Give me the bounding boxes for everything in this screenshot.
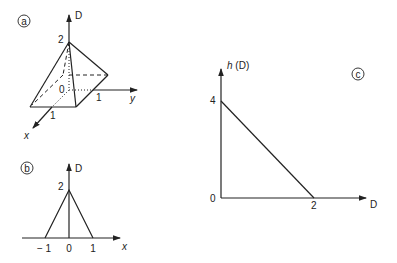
- edge-right: [69, 42, 108, 75]
- x-axis-label: x: [121, 241, 128, 252]
- origin-label: 0: [210, 193, 216, 204]
- y-tick-1: 1: [96, 92, 102, 103]
- panel-c-badge-label: c: [356, 69, 361, 80]
- panel-b-badge-label: b: [24, 163, 30, 174]
- x-axis-label: x: [23, 130, 30, 141]
- x-tick-2: 2: [311, 200, 317, 211]
- x-tick-1: 1: [50, 110, 56, 121]
- tick-0: 0: [66, 243, 72, 254]
- figure-canvas: a D 2 y 1 x 1 0 b D 2: [0, 0, 397, 263]
- panel-c: c h (D) D 4 0 2: [210, 60, 377, 211]
- panel-a-badge-label: a: [21, 16, 27, 27]
- apex-label: 2: [58, 34, 64, 45]
- y-axis-label: y: [129, 93, 136, 104]
- d-axis-label: D: [75, 10, 82, 21]
- d-axis-label: D: [370, 199, 377, 210]
- base-right: [76, 75, 108, 107]
- tick-minus-1: − 1: [37, 243, 52, 254]
- h-axis-label: h (D): [227, 60, 249, 71]
- h-line: [221, 101, 314, 198]
- apex-label: 2: [58, 181, 64, 192]
- tick-1: 1: [90, 243, 96, 254]
- panel-a: a D 2 y 1 x 1 0: [18, 10, 137, 141]
- origin-label: 0: [59, 84, 65, 95]
- panel-b: b D 2 − 1 0 1 x: [21, 162, 128, 254]
- y-tick-4: 4: [210, 95, 216, 106]
- d-axis-label: D: [75, 163, 82, 174]
- edge-left: [30, 42, 69, 107]
